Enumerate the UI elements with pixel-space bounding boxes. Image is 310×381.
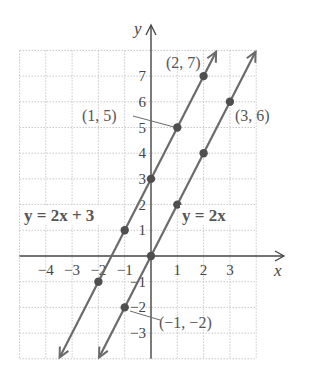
- data-point: [147, 175, 155, 183]
- x-tick-label: 1: [174, 262, 182, 278]
- x-tick-label: 2: [200, 262, 208, 278]
- y-tick-label: 6: [139, 94, 147, 110]
- point-label: (2, 7): [166, 54, 201, 72]
- point-label: (1, 5): [82, 107, 117, 125]
- y-tick-label: 5: [139, 120, 147, 136]
- equation-label: y = 2x + 3: [24, 206, 94, 225]
- equation-label: y = 2x: [182, 206, 226, 225]
- x-axis-label: x: [273, 261, 282, 280]
- y-tick-label: 7: [139, 68, 147, 84]
- data-point: [121, 303, 129, 311]
- data-point: [226, 98, 234, 106]
- data-point: [147, 252, 155, 260]
- data-point: [121, 226, 129, 234]
- tick-labels: −4−3−2−1123−3−2−11234567: [38, 68, 234, 341]
- data-point: [173, 123, 181, 131]
- chart-canvas: xy −4−3−2−1123−3−2−11234567 (2, 7)(1, 5)…: [0, 0, 310, 381]
- y-axis-label: y: [132, 19, 142, 38]
- x-tick-label: −4: [38, 262, 54, 278]
- y-tick-label: −3: [130, 325, 146, 341]
- x-tick-label: 3: [226, 262, 234, 278]
- data-point: [199, 149, 207, 157]
- x-tick-label: −3: [64, 262, 80, 278]
- data-point: [94, 278, 102, 286]
- y-tick-label: 1: [139, 222, 147, 238]
- data-point: [199, 72, 207, 80]
- point-label: (3, 6): [235, 107, 270, 125]
- point-label: (−1, −2): [159, 314, 212, 332]
- y-tick-label: 3: [139, 171, 147, 187]
- y-tick-label: 4: [139, 145, 147, 161]
